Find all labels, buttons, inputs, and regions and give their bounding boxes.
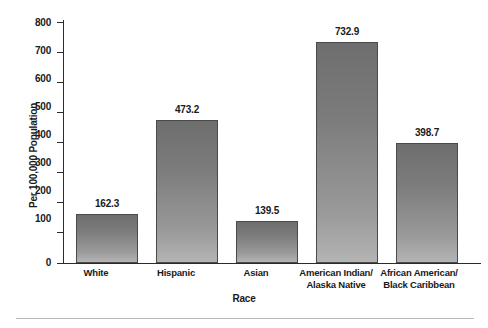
y-tick-label-600: 600 [11, 74, 51, 84]
y-tick-label-200: 200 [11, 186, 51, 196]
bar-african-american-black-caribbean[interactable] [396, 143, 458, 263]
y-tick-label-800: 800 [11, 18, 51, 28]
y-tick-label-500: 500 [11, 102, 51, 112]
y-tick-label-100: 100 [11, 214, 51, 224]
x-category-label-african-american-line2: Black Caribbean [363, 279, 475, 291]
x-category-label-african-american-line1: African American/ [363, 267, 475, 279]
x-category-label-african-american-black-caribbean: African American/ Black Caribbean [363, 267, 475, 291]
bar-value-american-indian-alaska-native: 732.9 [335, 26, 359, 37]
x-axis-line [63, 263, 481, 264]
plot-area: 162.3 473.2 139.5 732.9 398.7 [63, 18, 481, 263]
bar-chart-figure: Per 100,000 Population 800 700 600 500 4… [0, 0, 488, 328]
bar-group-asian: 139.5 [236, 18, 298, 263]
bar-value-african-american-black-caribbean: 398.7 [415, 127, 439, 138]
bar-hispanic[interactable] [156, 120, 218, 263]
bar-group-american-indian-alaska-native: 732.9 [316, 18, 378, 263]
bottom-divider [16, 318, 474, 319]
bar-asian[interactable] [236, 221, 298, 263]
bar-group-white: 162.3 [76, 18, 138, 263]
x-axis-title: Race [0, 293, 488, 304]
bar-value-white: 162.3 [95, 198, 119, 209]
y-tick-label-700: 700 [11, 46, 51, 56]
bar-group-african-american-black-caribbean: 398.7 [396, 18, 458, 263]
y-tick-label-400: 400 [11, 130, 51, 140]
y-axis-title: Per 100,000 Population [28, 76, 39, 236]
bar-white[interactable] [76, 214, 138, 263]
bar-group-hispanic: 473.2 [156, 18, 218, 263]
bar-value-hispanic: 473.2 [175, 104, 199, 115]
y-tick-label-0: 0 [11, 258, 51, 268]
y-tick-label-300: 300 [11, 158, 51, 168]
bar-value-asian: 139.5 [255, 205, 279, 216]
bar-american-indian-alaska-native[interactable] [316, 42, 378, 263]
